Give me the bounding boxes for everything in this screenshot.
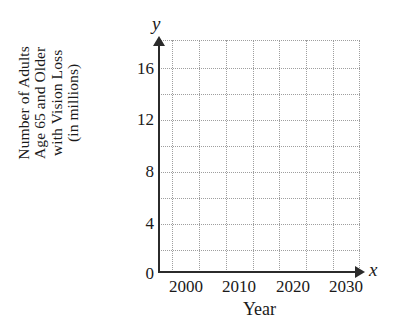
y-axis-line xyxy=(158,44,160,273)
y-tick-label: 16 xyxy=(114,60,154,77)
gridline-vertical xyxy=(253,40,254,272)
plot-area xyxy=(159,40,360,272)
gridline-vertical xyxy=(306,40,307,272)
gridline-horizontal xyxy=(159,250,360,251)
y-axis-title-line: Number of Adults xyxy=(16,46,32,160)
gridline-horizontal xyxy=(159,198,360,199)
x-tick-label: 2030 xyxy=(316,278,376,295)
y-axis-tick-labels: 16 12 8 4 0 xyxy=(110,0,154,334)
gridline-vertical xyxy=(279,40,280,272)
gridline-horizontal xyxy=(159,94,360,95)
gridline-vertical xyxy=(172,40,173,272)
y-tick-label: 0 xyxy=(114,265,154,282)
y-axis-arrow-icon xyxy=(153,36,165,46)
x-tick-label: 2020 xyxy=(263,278,323,295)
x-axis-title: Year xyxy=(159,300,360,318)
y-tick-label: 12 xyxy=(114,111,154,128)
gridline-horizontal xyxy=(159,172,360,173)
x-axis-line xyxy=(158,271,357,273)
gridline-vertical xyxy=(333,40,334,272)
x-tick-label: 2010 xyxy=(209,278,269,295)
gridline-horizontal xyxy=(159,40,360,41)
y-axis-title: Number of Adults Age 65 and Older with V… xyxy=(16,0,82,219)
gridline-horizontal xyxy=(159,120,360,121)
x-axis-symbol: x xyxy=(369,260,377,279)
gridline-vertical xyxy=(359,40,360,272)
y-axis-title-line: Age 65 and Older xyxy=(33,47,49,159)
x-tick-label: 2000 xyxy=(156,278,216,295)
gridline-vertical xyxy=(226,40,227,272)
y-tick-label: 4 xyxy=(114,215,154,232)
y-tick-label: 8 xyxy=(114,163,154,180)
gridline-vertical xyxy=(199,40,200,272)
y-axis-title-line: with Vision Loss xyxy=(49,50,65,156)
gridline-horizontal xyxy=(159,68,360,69)
gridline-horizontal xyxy=(159,224,360,225)
y-axis-title-line: (in millions) xyxy=(65,64,81,142)
gridline-horizontal xyxy=(159,146,360,147)
chart-figure: y x 16 12 8 4 0 2000 2010 2020 2030 Numb… xyxy=(0,0,400,334)
